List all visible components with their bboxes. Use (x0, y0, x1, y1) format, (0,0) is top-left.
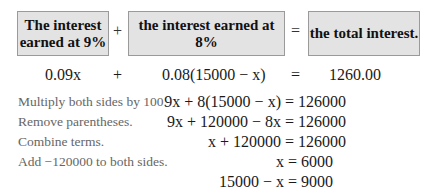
algebraic-equals: = (291, 66, 300, 84)
step-note-3: Combine terms. (18, 134, 104, 150)
term-0.09x: 0.09x (45, 66, 81, 84)
word-box-2-text: the interest earned at 8% (129, 17, 284, 51)
word-box-interest-9: The interest earned at 9% (17, 11, 109, 56)
word-box-interest-8: the interest earned at 8% (128, 11, 285, 56)
plus-operator: + (113, 22, 122, 40)
step-note-2: Remove parentheses. (18, 114, 133, 130)
word-box-3-text: the total interest. (310, 25, 418, 42)
word-box-1-line-2: earned at 9% (20, 34, 107, 51)
step-equation-5: 15000 − x = 9000 (219, 173, 333, 191)
algebraic-plus: + (113, 66, 122, 84)
step-equation-2: 9x + 120000 − 8x = 126000 (167, 113, 346, 131)
step-equation-3: x + 120000 = 126000 (208, 133, 346, 151)
step-note-1: Multiply both sides by 100. (18, 94, 167, 110)
step-note-4: Add −120000 to both sides. (18, 154, 168, 170)
equals-operator: = (291, 22, 300, 40)
term-0.08-expression: 0.08(15000 − x) (162, 66, 266, 84)
step-equation-1: 9x + 8(15000 − x) = 126000 (164, 93, 346, 111)
word-box-1-line-1: The interest (20, 17, 107, 34)
word-box-total-interest: the total interest. (308, 11, 420, 56)
step-equation-4: x = 6000 (276, 153, 333, 171)
result-1260: 1260.00 (329, 66, 381, 84)
